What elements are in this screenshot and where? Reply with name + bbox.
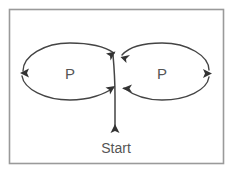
figure-frame: P P Start: [0, 0, 233, 173]
start-label: Start: [101, 140, 131, 156]
loop-diagram: P P Start: [0, 0, 233, 173]
right-loop-label: P: [157, 65, 167, 82]
left-loop-label: P: [65, 65, 75, 82]
